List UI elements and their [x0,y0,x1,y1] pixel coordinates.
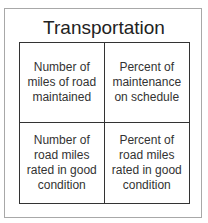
metric-cell-miles-good-condition: Number of road miles rated in good condi… [20,123,105,203]
metrics-grid: Number of miles of road maintained Perce… [19,42,190,204]
diagram-title: Transportation [0,17,208,39]
metric-cell-miles-maintained: Number of miles of road maintained [20,43,105,123]
metric-cell-maintenance-on-schedule: Percent of maintenance on schedule [105,43,190,123]
metric-cell-percent-good-condition: Percent of road miles rated in good cond… [105,123,190,203]
